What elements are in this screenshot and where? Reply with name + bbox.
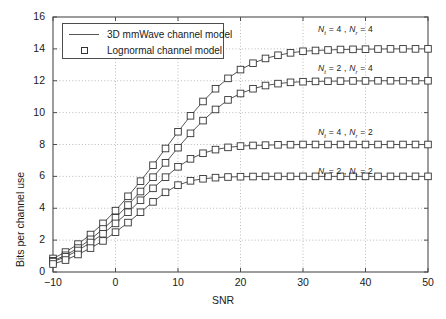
series-marker <box>375 46 382 53</box>
series-marker <box>187 178 194 185</box>
x-tick-30: 30 <box>283 276 323 288</box>
series-marker <box>100 230 107 237</box>
series-marker <box>287 79 294 86</box>
series-marker <box>362 141 369 148</box>
series-annotation-0: Nt = 4 , Nr = 4 <box>318 24 373 36</box>
series-marker <box>87 245 94 252</box>
series-marker <box>150 199 157 206</box>
series-marker <box>387 77 394 84</box>
series-marker <box>237 143 244 150</box>
series-marker <box>212 106 219 113</box>
x-tick--10: −10 <box>33 276 73 288</box>
series-marker <box>137 197 144 204</box>
series-marker <box>262 55 269 62</box>
x-tick-40: 40 <box>346 276 386 288</box>
series-marker <box>412 141 419 148</box>
series-marker <box>150 174 157 181</box>
legend-line-swatch <box>67 34 101 35</box>
series-marker <box>75 251 82 258</box>
series-marker <box>387 46 394 53</box>
series-marker <box>275 142 282 149</box>
series-marker <box>200 175 207 182</box>
series-marker <box>237 173 244 180</box>
series-marker <box>200 98 207 105</box>
series-marker <box>225 144 232 151</box>
series-marker <box>250 173 257 180</box>
series-marker <box>262 82 269 89</box>
series-marker <box>237 66 244 73</box>
series-marker <box>187 130 194 137</box>
series-annotation-2: Nt = 4 , Nr = 2 <box>318 127 373 139</box>
x-tick-10: 10 <box>158 276 198 288</box>
series-marker <box>212 146 219 153</box>
series-marker <box>400 77 407 84</box>
series-marker <box>350 46 357 53</box>
series-marker <box>375 173 382 180</box>
series-marker <box>337 46 344 53</box>
series-marker <box>187 156 194 163</box>
series-marker <box>137 188 144 195</box>
series-marker <box>287 141 294 148</box>
series-marker <box>150 162 157 169</box>
x-tick-20: 20 <box>221 276 261 288</box>
series-marker <box>337 78 344 85</box>
series-marker <box>175 144 182 151</box>
series-marker <box>250 142 257 149</box>
legend-label-0: 3D mmWave channel model <box>107 29 232 40</box>
series-marker <box>362 46 369 53</box>
series-marker <box>400 141 407 148</box>
series-marker <box>162 160 169 167</box>
series-annotation-3: Nt = 2 , Nr = 2 <box>318 166 373 178</box>
series-annotation-1: Nt = 2 , Nr = 4 <box>318 63 373 75</box>
chart-legend: 3D mmWave channel model Lognormal channe… <box>62 23 224 59</box>
series-marker <box>287 50 294 57</box>
series-marker <box>375 141 382 148</box>
series-marker <box>200 150 207 157</box>
series-marker <box>275 52 282 59</box>
series-marker <box>262 142 269 149</box>
series-marker <box>400 173 407 180</box>
series-marker <box>175 182 182 189</box>
series-marker <box>300 141 307 148</box>
series-marker <box>287 173 294 180</box>
series-marker <box>225 75 232 82</box>
x-tick-50: 50 <box>408 276 446 288</box>
series-marker <box>137 209 144 216</box>
series-marker <box>162 189 169 196</box>
y-tick-12: 12 <box>0 74 45 86</box>
series-marker <box>175 164 182 171</box>
series-marker <box>225 97 232 104</box>
series-line-0 <box>53 49 428 259</box>
y-tick-10: 10 <box>0 106 45 118</box>
series-marker <box>425 46 432 53</box>
series-marker <box>250 85 257 92</box>
series-marker <box>125 209 132 216</box>
legend-marker-swatch <box>67 47 101 54</box>
series-marker <box>312 78 319 85</box>
y-axis-title: Bits per channel use <box>14 172 26 267</box>
series-marker <box>225 174 232 181</box>
series-marker <box>250 60 257 67</box>
series-marker <box>212 174 219 181</box>
series-marker <box>412 173 419 180</box>
series-marker <box>150 185 157 192</box>
series-marker <box>125 219 132 226</box>
x-tick-0: 0 <box>96 276 136 288</box>
series-marker <box>325 141 332 148</box>
series-marker <box>400 46 407 53</box>
series-marker <box>325 78 332 85</box>
series-marker <box>375 77 382 84</box>
series-marker <box>125 202 132 209</box>
series-marker <box>262 173 269 180</box>
series-marker <box>200 117 207 124</box>
series-marker <box>300 173 307 180</box>
series-marker <box>350 78 357 85</box>
series-marker <box>162 174 169 181</box>
series-marker <box>312 47 319 54</box>
series-marker <box>112 207 119 214</box>
series-marker <box>337 141 344 148</box>
series-marker <box>212 85 219 92</box>
y-tick-8: 8 <box>0 138 45 150</box>
series-marker <box>312 141 319 148</box>
legend-label-1: Lognormal channel model <box>107 45 222 56</box>
